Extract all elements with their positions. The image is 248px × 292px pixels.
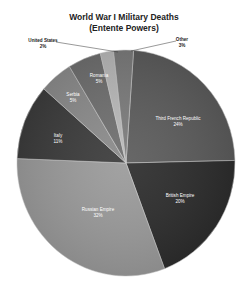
label-france: Third French Republic 24%: [155, 116, 200, 128]
label-british: British Empire 20%: [166, 193, 195, 205]
label-us: United States 2%: [28, 38, 57, 50]
label-british-pct: 20%: [166, 199, 195, 205]
label-italy-pct: 11%: [54, 139, 63, 145]
leader-line-other: [131, 41, 176, 51]
pie-slice-third-french-republic: [126, 50, 235, 163]
label-romania-pct: 5%: [90, 79, 108, 85]
label-other: Other 3%: [176, 37, 188, 49]
leader-line-us: [56, 42, 118, 52]
label-other-pct: 3%: [176, 43, 188, 49]
label-serbia: Serbia 5%: [66, 92, 79, 104]
label-russia: Russian Empire 32%: [82, 207, 114, 219]
label-romania: Romania 5%: [90, 73, 108, 85]
label-italy: Italy 11%: [54, 133, 63, 145]
label-france-pct: 24%: [155, 122, 200, 128]
label-serbia-pct: 5%: [66, 98, 79, 104]
label-us-pct: 2%: [28, 44, 57, 50]
label-russia-pct: 32%: [82, 213, 114, 219]
pie-slices: [17, 50, 235, 276]
